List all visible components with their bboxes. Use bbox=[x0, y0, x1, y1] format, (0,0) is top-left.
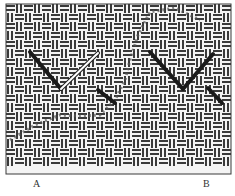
stitch-diagram bbox=[0, 0, 235, 196]
label-b: B bbox=[203, 178, 210, 189]
figure-caption bbox=[60, 189, 180, 192]
label-a: A bbox=[33, 178, 40, 189]
canvas-mesh bbox=[6, 4, 231, 174]
